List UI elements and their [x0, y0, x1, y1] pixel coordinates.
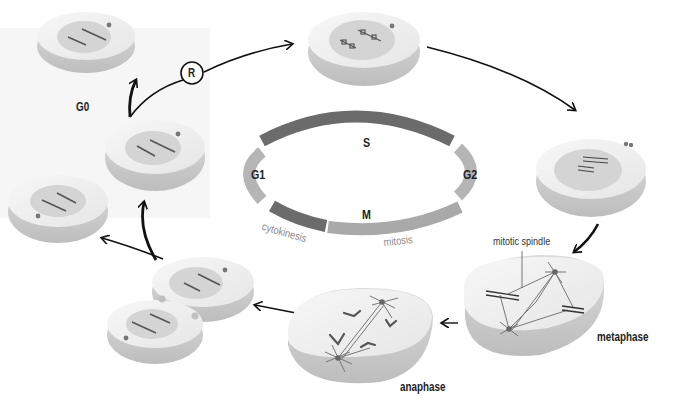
cycle-ring — [249, 117, 471, 230]
diagram-graphics — [0, 0, 676, 401]
restriction-point-label: R — [188, 66, 195, 80]
g0-label: G0 — [76, 100, 89, 114]
cell-g2-phase — [536, 139, 646, 217]
m-phase-label: M — [362, 207, 371, 222]
arrow-g1-to-r — [130, 80, 183, 117]
cell-s-phase — [308, 12, 420, 86]
g2-phase-label: G2 — [463, 167, 477, 182]
arrow-r-to-s — [204, 44, 292, 72]
arrow-g2-to-metaphase — [574, 224, 598, 252]
cell-metaphase — [464, 251, 604, 356]
cell-daughter-left — [8, 175, 108, 243]
cell-anaphase — [288, 288, 433, 383]
mitosis-arc — [328, 207, 460, 229]
s-phase-arc — [262, 117, 452, 142]
anaphase-label: anaphase — [400, 380, 445, 394]
cell-telophase — [107, 257, 254, 364]
s-phase-label: S — [363, 135, 370, 150]
g1-phase-label: G1 — [251, 167, 265, 182]
arrow-anaphase-to-telophase — [255, 305, 296, 313]
mitotic-spindle-label: mitotic spindle — [493, 235, 550, 247]
metaphase-label: metaphase — [597, 330, 648, 344]
cell-g0 — [37, 12, 135, 73]
arrow-s-to-g2 — [427, 47, 575, 110]
cell-cycle-diagram: G0 R S G1 G2 M cytokinesis mitosis mitot… — [0, 0, 676, 401]
cytokinesis-arc — [272, 206, 326, 226]
cell-g1-middle — [105, 120, 205, 191]
